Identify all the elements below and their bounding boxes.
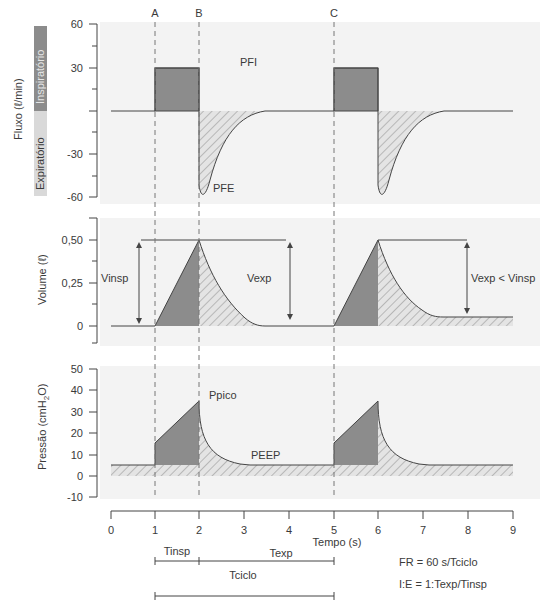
marker-c: C	[330, 7, 338, 19]
tinsp-texp-bracket	[155, 557, 334, 565]
texp-label: Texp	[269, 547, 292, 559]
flow-y-axis	[89, 24, 97, 197]
time-tick: 7	[420, 524, 426, 536]
pressure-tick: 10	[71, 449, 83, 461]
pressure-tick: 50	[71, 363, 83, 375]
vexp-label: Vexp	[247, 272, 271, 284]
tciclo-label: Tciclo	[229, 569, 257, 581]
ventilation-waveforms-chart: Inspiratório Expiratório Fluxo (ℓ/min) 6…	[0, 0, 540, 607]
insp-label: Inspiratório	[34, 50, 46, 104]
time-tick: 6	[375, 524, 381, 536]
pressure-tick: 30	[71, 406, 83, 418]
pressure-tick: 20	[71, 427, 83, 439]
pfe-label: PFE	[213, 182, 234, 194]
pressure-tick: 0	[77, 470, 83, 482]
volume-ylabel: Volume (ℓ)	[36, 254, 48, 305]
volume-tick: 0	[77, 320, 83, 332]
time-axis: 0 1 2 3 4 5 6 7 8 9 Tempo (s)	[108, 511, 516, 548]
exp-label: Expiratório	[34, 137, 46, 190]
pressure-ylabel: Pressão (cmH2O)	[36, 384, 51, 470]
marker-b: B	[195, 7, 202, 19]
time-tick: 8	[465, 524, 471, 536]
vinsp-label: Vinsp	[101, 272, 128, 284]
time-tick: 0	[108, 524, 114, 536]
inspiratory-flow-area-1	[155, 68, 199, 111]
time-tick: 3	[241, 524, 247, 536]
flow-tick: 30	[71, 62, 83, 74]
volume-y-axis	[89, 218, 97, 343]
pressure-tick: -10	[67, 491, 83, 503]
pfi-label: PFI	[240, 56, 257, 68]
time-tick: 2	[196, 524, 202, 536]
ie-formula: I:E = 1:Texp/Tinsp	[399, 578, 487, 590]
peep-label: PEEP	[251, 449, 280, 461]
ppico-label: Ppico	[209, 389, 237, 401]
time-tick: 1	[152, 524, 158, 536]
fr-formula: FR = 60 s/Tciclo	[399, 556, 478, 568]
inspiratory-flow-area-2	[334, 68, 378, 111]
pressure-y-axis	[89, 369, 97, 497]
time-tick: 5	[331, 524, 337, 536]
tciclo-bracket	[155, 592, 334, 600]
interval-brackets: Tinsp Texp Tciclo FR = 60 s/Tciclo I:E =…	[155, 545, 487, 600]
pressure-tick: 40	[71, 384, 83, 396]
time-xlabel: Tempo (s)	[313, 536, 362, 548]
tinsp-label: Tinsp	[164, 545, 191, 557]
time-tick: 9	[510, 524, 516, 536]
time-tick: 4	[286, 524, 292, 536]
vexp-lt-vinsp-label: Vexp < Vinsp	[471, 272, 535, 284]
flow-tick: -30	[67, 148, 83, 160]
volume-tick: 0,50	[62, 234, 83, 246]
marker-a: A	[151, 7, 159, 19]
flow-tick: -60	[67, 191, 83, 203]
flow-ylabel: Fluxo (ℓ/min)	[12, 78, 24, 140]
peep-band	[111, 465, 513, 476]
volume-tick: 0,25	[62, 277, 83, 289]
flow-tick: 60	[71, 18, 83, 30]
flow-panel-bg	[100, 22, 540, 204]
